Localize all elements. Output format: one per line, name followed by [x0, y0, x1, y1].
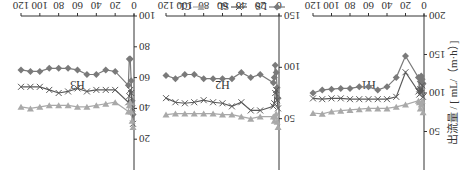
y-tick-label: 40: [139, 102, 151, 114]
diamond-marker: [93, 71, 100, 78]
diamond-marker: [319, 86, 326, 93]
chart-svg: 50100150200020406080100120入渗时间/hH1501001…: [0, 0, 471, 184]
y-tick-label: 100: [139, 10, 156, 22]
x-tick-label: 80: [53, 0, 65, 12]
diamond-marker: [36, 68, 43, 75]
x-tick-label: 80: [198, 0, 210, 12]
x-tick-label: 120: [304, 0, 321, 12]
diamond-marker: [257, 71, 264, 78]
legend: LSSLCL: [178, 1, 285, 12]
x-axis-title: 入渗时间/h: [196, 0, 249, 1]
diamond-marker: [55, 65, 62, 72]
legend-label-ls: LS: [255, 1, 267, 12]
y-tick-label: 20: [139, 133, 151, 145]
x-tick-label: 20: [400, 0, 412, 12]
x-marker: [163, 95, 169, 101]
chart-content: 50100150200020406080100120入渗时间/hH1501001…: [12, 0, 459, 170]
diamond-marker: [191, 71, 198, 78]
x-marker: [403, 69, 409, 75]
y-tick-label: 50: [429, 126, 441, 138]
y-tick-label: 150: [284, 10, 301, 22]
x-axis-title: 入渗时间/h: [51, 0, 104, 1]
x-tick-label: 120: [12, 0, 29, 12]
diamond-marker: [27, 68, 34, 75]
y-tick-label: 100: [429, 87, 446, 99]
x-tick-label: 40: [90, 0, 102, 12]
y-axis-title: 出流量 / [ mL/（m·h）]: [446, 41, 459, 146]
series-line-sl: [166, 90, 278, 111]
x-tick-label: 100: [31, 0, 48, 12]
diamond-marker: [272, 62, 279, 69]
legend-label-sl: SL: [217, 1, 229, 12]
diamond-marker: [181, 71, 188, 78]
x-tick-label: 40: [235, 0, 247, 12]
x-tick-label: 60: [363, 0, 375, 12]
diamond-marker: [200, 75, 207, 82]
y-tick-label: 80: [139, 41, 151, 53]
x-tick-label: 100: [323, 0, 340, 12]
x-tick-label: 60: [72, 0, 84, 12]
x-marker: [229, 103, 235, 109]
x-marker: [46, 87, 52, 93]
y-tick-label: 100: [284, 61, 301, 73]
diamond-marker: [74, 66, 81, 73]
x-tick-label: 20: [109, 0, 121, 12]
x-tick-label: 0: [131, 0, 137, 12]
x-tick-label: 120: [157, 0, 174, 12]
diamond-marker: [270, 79, 277, 86]
triangle-marker: [275, 124, 282, 130]
y-tick-label: 150: [429, 49, 446, 61]
diamond-marker: [337, 85, 344, 92]
panel-h2: 50100150020406080100120入渗时间/hH2: [157, 0, 300, 170]
panel-h1: 50100150200020406080100120入渗时间/hH1: [304, 0, 445, 170]
panel-h3: 20406080100020406080100120入渗时间/hH3: [12, 0, 155, 170]
diamond-marker: [247, 74, 254, 81]
y-tick-label: 50: [284, 113, 296, 125]
diamond-marker: [238, 69, 245, 76]
diamond-marker: [126, 56, 133, 63]
diamond-marker: [102, 66, 109, 73]
diamond-marker: [163, 72, 170, 79]
diamond-marker: [347, 85, 354, 92]
x-tick-label: 0: [421, 0, 427, 12]
legend-label-cl: CL: [178, 1, 191, 12]
y-tick-label: 200: [429, 10, 446, 22]
diamond-marker: [18, 66, 25, 73]
diamond-marker: [402, 53, 409, 60]
x-marker: [238, 99, 244, 105]
y-tick-label: 60: [139, 72, 151, 84]
x-axis-title: 入渗时间/h: [342, 0, 395, 1]
diamond-marker: [83, 71, 90, 78]
diamond-marker: [328, 86, 335, 93]
triangle-marker: [129, 118, 136, 124]
diamond-marker: [65, 65, 72, 72]
diamond-marker: [172, 75, 179, 82]
diamond-marker: [46, 65, 53, 72]
x-tick-label: 80: [344, 0, 356, 12]
x-tick-label: 40: [381, 0, 393, 12]
chart-area: 50100150200020406080100120入渗时间/hH1501001…: [0, 0, 471, 184]
